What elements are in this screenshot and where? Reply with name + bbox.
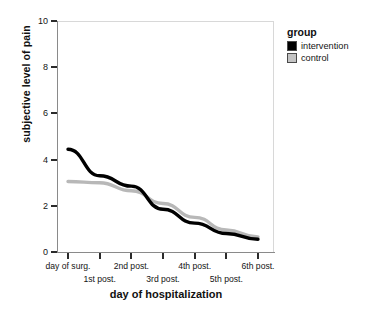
x-tick-label-4: 4th post. <box>178 262 211 271</box>
y-tick-label: 4 <box>43 155 48 164</box>
y-tick-mark <box>51 251 57 253</box>
y-tick-label: 10 <box>38 17 48 26</box>
y-tick-label: 2 <box>43 201 48 210</box>
legend-item-intervention[interactable]: intervention <box>287 41 349 51</box>
y-tick-4: 4 <box>51 159 57 161</box>
legend-label-control: control <box>301 53 329 63</box>
x-tick-label-3: 3rd post. <box>146 275 179 284</box>
y-tick-8: 8 <box>51 66 57 68</box>
x-tick-mark-4 <box>194 253 196 259</box>
x-tick-label-0: day of surg. <box>46 262 91 271</box>
y-tick-mark <box>51 20 57 22</box>
legend: group intervention control <box>287 26 349 63</box>
figure: 0246810 subjective level of pain day of … <box>0 0 370 313</box>
y-axis-title: subjective level of pain <box>20 14 32 154</box>
x-tick-mark-3 <box>162 253 164 259</box>
y-tick-label: 6 <box>43 109 48 118</box>
x-tick-mark-1 <box>99 253 101 259</box>
legend-swatch-control <box>287 53 297 63</box>
y-axis-line <box>57 21 58 253</box>
y-tick-6: 6 <box>51 112 57 114</box>
y-tick-0: 0 <box>51 251 57 253</box>
y-tick-mark <box>51 66 57 68</box>
y-tick-mark <box>51 205 57 207</box>
x-tick-label-2: 2nd post. <box>114 262 149 271</box>
x-tick-mark-2 <box>130 253 132 259</box>
y-tick-label: 0 <box>43 248 48 257</box>
x-tick-label-5: 5th post. <box>210 275 243 284</box>
legend-title: group <box>287 26 349 38</box>
y-tick-2: 2 <box>51 205 57 207</box>
x-tick-mark-5 <box>225 253 227 259</box>
x-axis-line <box>57 252 275 253</box>
x-axis-title: day of hospitalization <box>57 288 275 300</box>
x-tick-label-1: 1st post. <box>83 275 115 284</box>
legend-item-control[interactable]: control <box>287 53 349 63</box>
x-tick-label-6: 6th post. <box>242 262 275 271</box>
plot-area <box>57 21 274 253</box>
y-tick-mark <box>51 159 57 161</box>
x-tick-mark-0 <box>67 253 69 259</box>
y-tick-label: 8 <box>43 63 48 72</box>
y-tick-mark <box>51 112 57 114</box>
clipped-caption <box>0 305 370 313</box>
y-tick-10: 10 <box>51 20 57 22</box>
legend-label-intervention: intervention <box>301 41 349 51</box>
legend-swatch-intervention <box>287 41 297 51</box>
x-tick-mark-6 <box>257 253 259 259</box>
